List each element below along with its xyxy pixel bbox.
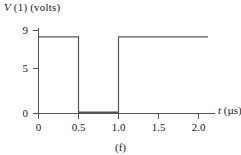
- y-tick-label-5: 5: [14, 62, 28, 74]
- x-tick-label-0: 0: [28, 121, 49, 133]
- x-axis-title: t (µs): [218, 104, 241, 116]
- x-tick-label-1-5: 1.5: [146, 121, 171, 133]
- y-tick-label-0: 0: [14, 107, 28, 119]
- x-tick-label-1-0: 1.0: [106, 121, 131, 133]
- figure-caption: (f): [0, 141, 241, 153]
- waveform-trace: [39, 37, 209, 114]
- x-tick-label-0-5: 0.5: [66, 121, 91, 133]
- x-axis-title-units: (µs): [221, 104, 241, 116]
- waveform-figure: V (1) (volts) 9 5 0 0 0.5 1.0 1.5 2.0 t …: [0, 0, 241, 155]
- x-tick-label-2-0: 2.0: [186, 121, 211, 133]
- y-tick-label-9: 9: [14, 24, 28, 36]
